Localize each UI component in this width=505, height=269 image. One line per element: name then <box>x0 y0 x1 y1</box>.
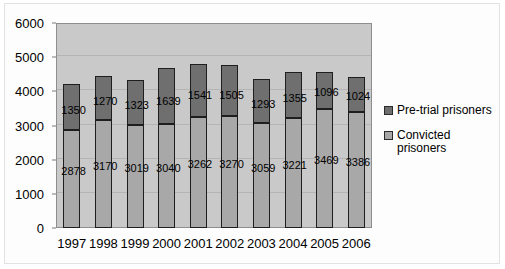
y-axis-tick-label: 3000 <box>15 118 44 133</box>
bar-segment-convicted[interactable] <box>190 117 207 228</box>
bar-segment-convicted[interactable] <box>253 123 270 228</box>
bar-segment-convicted[interactable] <box>63 130 80 228</box>
bar-value-label-pretrial: 1541 <box>188 90 212 101</box>
y-axis-tick-label: 6000 <box>15 16 44 31</box>
bar-value-label-convicted: 3019 <box>125 163 149 174</box>
legend-swatch-icon <box>384 106 393 115</box>
x-axis-tick-label: 2006 <box>342 236 371 251</box>
y-axis-tick-label: 4000 <box>15 84 44 99</box>
bar-value-label-convicted: 3221 <box>283 160 307 171</box>
bar-segment-convicted[interactable] <box>221 116 238 228</box>
bar-group[interactable]: 32621541 <box>190 23 207 228</box>
x-axis: 1997199819992000200120022003200420052006 <box>56 236 372 256</box>
legend-swatch-icon <box>384 131 393 140</box>
bar-value-label-pretrial: 1639 <box>156 96 180 107</box>
bar-value-label-pretrial: 1270 <box>93 96 117 107</box>
legend-label: Pre-trial prisoners <box>397 104 492 117</box>
bar-segment-convicted[interactable] <box>158 124 175 228</box>
legend-item[interactable]: Pre-trial prisoners <box>384 104 500 117</box>
bar-group[interactable]: 33861024 <box>348 23 365 228</box>
bar-value-label-convicted: 3270 <box>219 159 243 170</box>
bar-value-label-convicted: 3469 <box>314 155 338 166</box>
bar-group[interactable]: 28781350 <box>63 23 80 228</box>
bar-group[interactable]: 32701505 <box>221 23 238 228</box>
x-axis-tick-label: 2002 <box>215 236 244 251</box>
bar-value-label-convicted: 3040 <box>156 163 180 174</box>
bar-value-label-pretrial: 1293 <box>251 99 275 110</box>
bar-group[interactable]: 34691096 <box>316 23 333 228</box>
y-axis: 0100020003000400050006000 <box>0 23 50 228</box>
y-axis-tick-label: 2000 <box>15 152 44 167</box>
bar-value-label-pretrial: 1355 <box>283 93 307 104</box>
bar-value-label-convicted: 3386 <box>346 157 370 168</box>
bar-value-label-pretrial: 1350 <box>61 105 85 116</box>
bar-value-label-convicted: 2878 <box>61 166 85 177</box>
bar-value-label-pretrial: 1024 <box>346 91 370 102</box>
x-axis-tick-label: 2005 <box>310 236 339 251</box>
x-axis-tick-label: 2004 <box>279 236 308 251</box>
bars-layer: 2878135031701270301913233040163932621541… <box>56 23 372 228</box>
bar-value-label-pretrial: 1505 <box>219 90 243 101</box>
bar-value-label-convicted: 3262 <box>188 159 212 170</box>
legend-item[interactable]: Convicted prisoners <box>384 129 500 155</box>
x-axis-tick-label: 2003 <box>247 236 276 251</box>
bar-group[interactable]: 30191323 <box>127 23 144 228</box>
bar-segment-convicted[interactable] <box>95 120 112 228</box>
x-axis-tick-label: 1997 <box>57 236 86 251</box>
bar-value-label-convicted: 3170 <box>93 161 117 172</box>
x-axis-tick-label: 1999 <box>121 236 150 251</box>
x-axis-tick-label: 2001 <box>184 236 213 251</box>
bar-segment-convicted[interactable] <box>348 112 365 228</box>
bar-segment-convicted[interactable] <box>127 125 144 228</box>
bar-segment-convicted[interactable] <box>285 118 302 228</box>
legend-label: Convicted prisoners <box>397 129 500 155</box>
bar-value-label-pretrial: 1323 <box>125 100 149 111</box>
x-axis-tick-label: 2000 <box>152 236 181 251</box>
stacked-bar-chart: 0100020003000400050006000 28781350317012… <box>0 0 505 269</box>
y-axis-tick-label: 1000 <box>15 186 44 201</box>
bar-group[interactable]: 31701270 <box>95 23 112 228</box>
chart-legend: Pre-trial prisonersConvicted prisoners <box>384 104 500 167</box>
bar-group[interactable]: 32211355 <box>285 23 302 228</box>
bar-segment-convicted[interactable] <box>316 109 333 228</box>
y-axis-tick-label: 0 <box>37 221 44 236</box>
bar-group[interactable]: 30401639 <box>158 23 175 228</box>
x-axis-tick-label: 1998 <box>89 236 118 251</box>
bar-value-label-convicted: 3059 <box>251 163 275 174</box>
bar-value-label-pretrial: 1096 <box>314 87 338 98</box>
bar-group[interactable]: 30591293 <box>253 23 270 228</box>
y-axis-tick-label: 5000 <box>15 50 44 65</box>
